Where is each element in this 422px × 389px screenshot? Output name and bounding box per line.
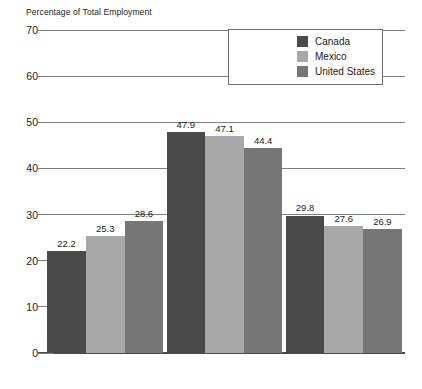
y-tick-label-20: 20: [8, 255, 38, 267]
bar: [286, 216, 325, 354]
tick-stub-70: [38, 30, 44, 31]
bar: [47, 251, 86, 353]
legend-item-united-states: United States: [229, 64, 382, 79]
legend-swatch-icon: [297, 66, 308, 77]
chart-legend: CanadaMexicoUnited States: [228, 29, 383, 85]
bar: [86, 236, 125, 353]
bar: [125, 221, 164, 353]
bar: [205, 136, 244, 353]
y-tick-label-0: 0: [8, 347, 38, 359]
y-tick-label-30: 30: [8, 209, 38, 221]
bar-value-label: 29.8: [296, 202, 315, 213]
bar-value-label: 44.4: [254, 135, 273, 146]
legend-swatch-icon: [297, 36, 308, 47]
legend-label: Canada: [315, 36, 350, 47]
bar-value-label: 26.9: [373, 216, 392, 227]
y-tick-label-70: 70: [8, 24, 38, 36]
bar-value-label: 25.3: [96, 223, 115, 234]
bar: [324, 226, 363, 353]
bar: [167, 132, 206, 353]
tick-stub-40: [38, 168, 44, 169]
legend-item-canada: Canada: [229, 34, 382, 49]
tick-stub-30: [38, 214, 44, 215]
legend-swatch-icon: [297, 51, 308, 62]
bar: [244, 148, 283, 353]
tick-stub-0: [38, 353, 44, 354]
bar-value-label: 28.6: [135, 208, 154, 219]
bar-value-label: 27.6: [335, 213, 354, 224]
bar: [363, 229, 402, 353]
legend-label: United States: [315, 66, 375, 77]
bar-value-label: 47.9: [177, 119, 196, 130]
tick-stub-10: [38, 306, 44, 307]
legend-label: Mexico: [315, 51, 347, 62]
y-tick-label-40: 40: [8, 162, 38, 174]
y-tick-label-10: 10: [8, 301, 38, 313]
bar-value-label: 22.2: [57, 238, 76, 249]
tick-stub-50: [38, 122, 44, 123]
tick-stub-60: [38, 76, 44, 77]
y-axis-tick-labels: 010203040506070: [0, 30, 38, 353]
bar-chart: Percentage of Total Employment 010203040…: [0, 0, 422, 389]
bar-value-label: 47.1: [215, 123, 234, 134]
tick-stub-20: [38, 260, 44, 261]
y-axis-title: Percentage of Total Employment: [26, 7, 152, 17]
legend-item-mexico: Mexico: [229, 49, 382, 64]
y-tick-label-60: 60: [8, 70, 38, 82]
y-tick-label-50: 50: [8, 116, 38, 128]
